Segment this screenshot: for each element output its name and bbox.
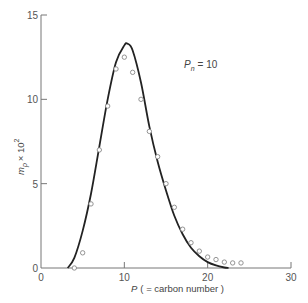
data-point xyxy=(122,55,126,59)
x-tick-label: 30 xyxy=(285,272,297,283)
data-point xyxy=(239,261,243,265)
data-point xyxy=(114,67,118,71)
y-axis-title-sup: 2 xyxy=(13,138,20,142)
x-tick-label: 20 xyxy=(202,272,214,283)
x-axis-title: P( = carbon number ) xyxy=(131,283,224,294)
y-tick-label: 5 xyxy=(32,179,38,190)
x-tick-label: 0 xyxy=(38,272,44,283)
data-point xyxy=(230,261,234,265)
data-point xyxy=(222,260,226,264)
data-point xyxy=(155,154,159,158)
x-axis-title-symbol: P xyxy=(131,283,138,294)
theoretical-curve xyxy=(68,43,229,268)
annotation-value: = 10 xyxy=(198,59,218,70)
y-axis-title-sub: p xyxy=(21,163,29,168)
data-point xyxy=(197,249,201,253)
y-axis-title-mult: × 10 xyxy=(15,142,26,161)
data-point xyxy=(164,181,168,185)
annotation-pn: Pn= 10 xyxy=(184,59,218,72)
data-point xyxy=(130,70,134,74)
data-point xyxy=(205,255,209,259)
y-tick-label: 10 xyxy=(27,94,39,105)
data-point xyxy=(89,202,93,206)
data-point xyxy=(72,266,76,270)
chart: 0510150102030 Pn= 10 P( = carbon number … xyxy=(0,0,308,303)
y-axis-title: mp× 102 xyxy=(13,138,29,175)
data-point xyxy=(189,241,193,245)
data-point xyxy=(147,129,151,133)
data-point xyxy=(139,97,143,101)
data-point xyxy=(180,227,184,231)
x-axis-title-text: ( = carbon number ) xyxy=(140,283,224,294)
y-axis-title-base: m xyxy=(15,167,26,175)
data-point xyxy=(105,104,109,108)
data-point xyxy=(214,257,218,261)
data-point xyxy=(97,148,101,152)
data-point xyxy=(80,251,84,255)
y-tick-label: 15 xyxy=(27,10,39,21)
annotation-subscript: n xyxy=(191,65,195,72)
curve-path xyxy=(68,43,229,268)
x-tick-label: 10 xyxy=(119,272,131,283)
axes: 0510150102030 xyxy=(27,10,297,283)
data-point xyxy=(172,205,176,209)
